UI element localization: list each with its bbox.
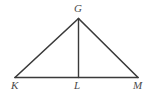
vertex-label-L: L (74, 80, 80, 91)
segment-KG (15, 19, 79, 78)
geometry-figure: G K L M (0, 0, 149, 95)
vertex-label-G: G (74, 3, 82, 14)
segment-GM (79, 19, 139, 78)
vertex-label-K: K (11, 80, 18, 91)
vertex-label-M: M (133, 80, 142, 91)
